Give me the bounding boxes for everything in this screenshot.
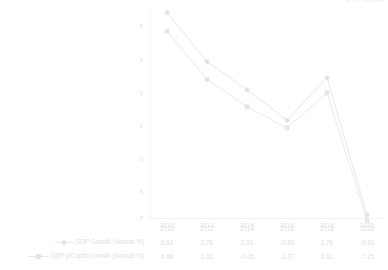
y-tick-label: 1	[140, 89, 144, 96]
data-point-marker[interactable]	[285, 118, 289, 122]
data-point-marker[interactable]	[165, 29, 169, 33]
legend-item-label: GDP p/Capita Growth (Annual %)	[50, 253, 144, 259]
table-cell: -6.81	[347, 239, 387, 246]
table-cell: -0.05	[227, 253, 267, 260]
data-point-marker[interactable]	[325, 76, 329, 80]
table-row: GDP p/Capita Growth (Annual %) 4.68 1.66…	[0, 250, 388, 263]
data-point-marker[interactable]	[205, 59, 209, 63]
table-cell: 1.76	[307, 239, 347, 246]
y-axis-tick-labels: 5 3 1 -1 -3 -5 -7	[137, 22, 143, 221]
table-header-cell: 2016	[267, 225, 307, 232]
table-cell: 1.66	[187, 253, 227, 260]
data-point-marker[interactable]	[205, 77, 209, 81]
y-tick-label: -1	[137, 122, 143, 129]
table-header-cell: 2020	[347, 225, 387, 232]
legend-marker-circle-icon	[55, 239, 74, 246]
data-point-marker[interactable]	[165, 10, 169, 14]
table-header-cell: 2010	[147, 225, 187, 232]
series-layer	[165, 10, 369, 222]
data-point-marker[interactable]	[325, 91, 329, 95]
chart-data-table: 2010 2012 2014 2016 2018 2020 GDP Growth…	[0, 222, 388, 266]
table-cell: -7.15	[347, 253, 387, 260]
table-header-cell: 2018	[307, 225, 347, 232]
data-point-marker[interactable]	[285, 126, 289, 130]
table-cell: -0.89	[267, 239, 307, 246]
table-cell: 5.84	[147, 239, 187, 246]
gdp-growth-line-chart: GDP Growth 5 3 1 -1 -3 -5 -7 2010 2012 2…	[0, 0, 388, 270]
table-header-cell: 2012	[187, 225, 227, 232]
data-point-marker[interactable]	[245, 88, 249, 92]
series-line-1	[167, 13, 367, 215]
y-tick-label: 3	[140, 56, 144, 63]
table-header-cell: 2014	[227, 225, 267, 232]
legend-item-gdp-per-capita-growth[interactable]: GDP p/Capita Growth (Annual %)	[0, 253, 147, 260]
table-cell: 0.82	[307, 253, 347, 260]
legend-marker-square-icon	[29, 253, 48, 260]
data-point-marker[interactable]	[245, 105, 249, 109]
series-line-2	[167, 31, 367, 220]
legend-item-gdp-growth[interactable]: GDP Growth (Annual %)	[0, 239, 147, 246]
y-tick-label: 5	[140, 22, 144, 29]
table-cell: 1.01	[227, 239, 267, 246]
table-header-row: 2010 2012 2014 2016 2018 2020	[0, 222, 388, 235]
legend-item-label: GDP Growth (Annual %)	[76, 239, 144, 245]
table-cell: 4.68	[147, 253, 187, 260]
table-row: GDP Growth (Annual %) 5.84 2.78 1.01 -0.…	[0, 236, 388, 249]
y-tick-label: -3	[137, 155, 143, 162]
y-tick-label: -7	[137, 214, 143, 221]
table-cell: 2.78	[187, 239, 227, 246]
table-cell: -1.37	[267, 253, 307, 260]
y-tick-label: -5	[137, 188, 143, 195]
